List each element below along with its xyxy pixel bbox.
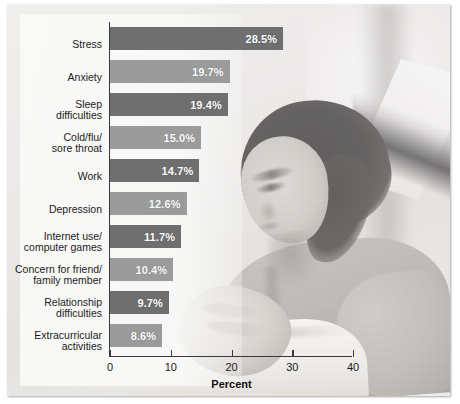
y-axis-line [109, 22, 110, 357]
x-axis-tick [110, 350, 111, 357]
bar-row: Stress28.5% [0, 27, 460, 60]
category-label: Anxiety [6, 72, 102, 84]
bar-row: Concern for friend/ family member10.4% [0, 258, 460, 291]
bar-value-label: 28.5% [245, 33, 277, 45]
x-axis-tick [292, 350, 293, 357]
bar-chart: Stress28.5%Anxiety19.7%Sleep difficultie… [0, 0, 460, 404]
bar-value-label: 12.6% [149, 198, 181, 210]
bar: 19.4% [110, 93, 228, 116]
bar: 8.6% [110, 324, 162, 347]
bar-value-label: 19.7% [192, 66, 224, 78]
category-label: Work [6, 171, 102, 183]
category-label: Internet use/ computer games [6, 231, 102, 254]
x-axis-tick-label: 30 [272, 361, 312, 373]
x-axis-tick-label: 20 [212, 361, 252, 373]
bar: 10.4% [110, 258, 173, 281]
bar-value-label: 15.0% [163, 132, 195, 144]
bar: 28.5% [110, 27, 283, 50]
bar: 9.7% [110, 291, 169, 314]
bar-value-label: 11.7% [144, 231, 175, 243]
bar-row: Work14.7% [0, 159, 460, 192]
category-label: Extracurricular activities [6, 330, 102, 353]
category-label: Concern for friend/ family member [6, 264, 102, 287]
bar-row: Internet use/ computer games11.7% [0, 225, 460, 258]
bar-value-label: 14.7% [162, 165, 194, 177]
category-label: Depression [6, 204, 102, 216]
x-axis-tick-label: 40 [333, 361, 373, 373]
bar-row: Relationship difficulties9.7% [0, 291, 460, 324]
bar-value-label: 9.7% [137, 297, 162, 309]
x-axis-tick-label: 0 [90, 361, 130, 373]
bar: 11.7% [110, 225, 181, 248]
bar-value-label: 19.4% [190, 99, 222, 111]
bar-row: Depression12.6% [0, 192, 460, 225]
bar-value-label: 10.4% [135, 264, 167, 276]
bar-row: Extracurricular activities8.6% [0, 324, 460, 357]
bar-row: Cold/flu/ sore throat15.0% [0, 126, 460, 159]
category-label: Stress [6, 39, 102, 51]
x-axis-tick-label: 10 [151, 361, 191, 373]
bar-row: Sleep difficulties19.4% [0, 93, 460, 126]
category-label: Relationship difficulties [6, 297, 102, 320]
x-axis-line [109, 356, 352, 357]
category-label: Sleep difficulties [6, 99, 102, 122]
bar: 14.7% [110, 159, 199, 182]
x-axis-title: Percent [110, 378, 353, 390]
bar-row: Anxiety19.7% [0, 60, 460, 93]
bar: 12.6% [110, 192, 187, 215]
x-axis-tick [171, 350, 172, 357]
x-axis-tick [353, 350, 354, 357]
figure: Stress28.5%Anxiety19.7%Sleep difficultie… [0, 0, 460, 404]
bar: 15.0% [110, 126, 201, 149]
x-axis-tick [232, 350, 233, 357]
bar-value-label: 8.6% [131, 330, 156, 342]
category-label: Cold/flu/ sore throat [6, 132, 102, 155]
bar: 19.7% [110, 60, 230, 83]
